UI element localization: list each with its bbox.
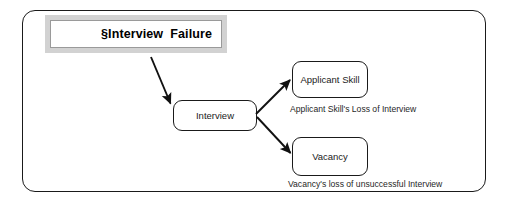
- diagram-canvas: §Interview Failure Interview Applicant S…: [0, 0, 507, 203]
- vacancy-caption: Vacancy's loss of unsuccessful Interview: [288, 180, 442, 189]
- node-applicant-skill-label: Applicant Skill: [300, 75, 359, 85]
- page-title: §Interview Failure: [101, 27, 212, 41]
- applicant-skill-caption: Applicant Skill's Loss of Interview: [290, 105, 416, 114]
- diagram-title-frame: §Interview Failure: [45, 15, 227, 53]
- node-applicant-skill[interactable]: Applicant Skill: [292, 61, 368, 98]
- node-vacancy[interactable]: Vacancy: [292, 137, 368, 176]
- node-interview-label: Interview: [196, 111, 234, 121]
- node-interview[interactable]: Interview: [173, 100, 257, 131]
- node-vacancy-label: Vacancy: [312, 152, 348, 162]
- diagram-title-inner: §Interview Failure: [50, 20, 222, 48]
